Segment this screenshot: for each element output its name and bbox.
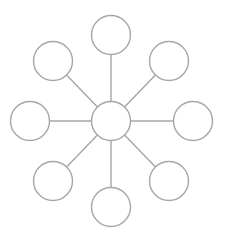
node-bottom-left (34, 162, 73, 201)
connector-bottom-right (125, 135, 156, 167)
hub-node (92, 102, 131, 141)
hub-spoke-diagram (0, 0, 226, 238)
node-right (174, 102, 213, 141)
node-left (11, 102, 50, 141)
node-bottom-right (150, 162, 189, 201)
node-top-left (34, 42, 73, 81)
diagram-nodes (11, 16, 213, 227)
node-bottom (92, 188, 131, 227)
connector-top-left (67, 75, 98, 107)
node-top-right (150, 42, 189, 81)
connector-bottom-left (67, 135, 98, 167)
node-top (92, 16, 131, 55)
connector-top-right (125, 75, 156, 107)
